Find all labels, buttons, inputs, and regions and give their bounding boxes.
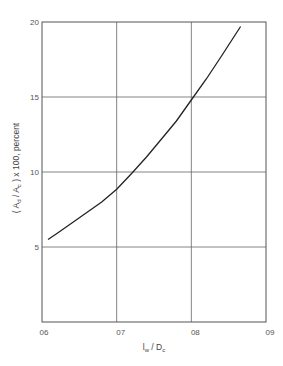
y-tick-label: 20 — [30, 18, 39, 27]
data-curve — [48, 27, 241, 240]
y-tick-label: 10 — [30, 168, 39, 177]
x-tick-label: 07 — [116, 328, 125, 337]
y-tick-label: 5 — [35, 243, 40, 252]
x-tick-label: 09 — [266, 328, 275, 337]
y-axis-label: ( Ad / Ac ) x 100, percent — [11, 122, 22, 213]
x-tick-label: 08 — [191, 328, 200, 337]
y-tick-labels: 5101520 — [30, 18, 39, 252]
chart: 06070809 5101520 lw / Dc ( Ad / Ac ) x 1… — [0, 0, 283, 366]
grid — [42, 22, 266, 322]
x-tick-labels: 06070809 — [40, 328, 275, 337]
x-axis-label: lw / Dc — [143, 342, 165, 353]
y-tick-label: 15 — [30, 93, 39, 102]
x-tick-label: 06 — [40, 328, 49, 337]
